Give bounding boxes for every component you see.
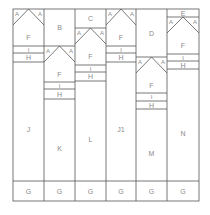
panel-label-f: F — [181, 42, 185, 49]
base-label-g: G — [57, 188, 62, 195]
column-body-label: J1 — [117, 126, 125, 133]
strip-label-h: H — [26, 54, 31, 61]
corner-label-a-right: A — [130, 11, 134, 17]
stacked-module-diagram: AAFIHJGBAAFIHKGCAAFIHLGAAFIHJ1GDAAFIHMGE… — [0, 0, 210, 215]
strip-label-i: I — [182, 55, 184, 61]
panel-label-f: F — [57, 71, 61, 78]
strip-label-i: I — [120, 47, 122, 53]
column-body-label: M — [149, 150, 155, 157]
base-label-g: G — [88, 188, 93, 195]
strip-label-h: H — [88, 73, 93, 80]
corner-label-a-left: A — [46, 48, 50, 54]
strip-label-h: H — [118, 54, 123, 61]
top-box-label: C — [88, 15, 93, 22]
column-body-label: L — [89, 136, 93, 143]
column-body-label: J — [27, 126, 31, 133]
corner-label-a-left: A — [169, 19, 173, 25]
corner-label-a-left: A — [138, 59, 142, 65]
panel-label-f: F — [88, 53, 92, 60]
corner-label-a-left: A — [108, 11, 112, 17]
top-box-label: E — [181, 10, 186, 17]
strip-label-h: H — [180, 62, 185, 69]
base-label-g: G — [149, 188, 154, 195]
panel-label-f: F — [26, 34, 30, 41]
corner-label-a-right: A — [100, 30, 104, 36]
panel-label-f: F — [119, 34, 123, 41]
corner-label-a-left: A — [15, 11, 19, 17]
panel-label-f: F — [149, 82, 153, 89]
base-label-g: G — [26, 188, 31, 195]
strip-label-i: I — [59, 83, 61, 89]
column-body-label: K — [57, 145, 62, 152]
strip-label-i: I — [28, 47, 30, 53]
corner-label-a-right: A — [161, 59, 165, 65]
top-box-label: D — [149, 30, 154, 37]
strip-label-h: H — [149, 102, 154, 109]
base-label-g: G — [180, 188, 185, 195]
strip-label-i: I — [90, 66, 92, 72]
corner-label-a-right: A — [38, 11, 42, 17]
corner-label-a-right: A — [193, 19, 197, 25]
base-label-g: G — [118, 188, 123, 195]
top-box-label: B — [57, 24, 62, 31]
column-body-label: N — [180, 130, 185, 137]
strip-label-h: H — [57, 91, 62, 98]
strip-label-i: I — [151, 94, 153, 100]
corner-label-a-right: A — [69, 48, 73, 54]
corner-label-a-left: A — [77, 30, 81, 36]
